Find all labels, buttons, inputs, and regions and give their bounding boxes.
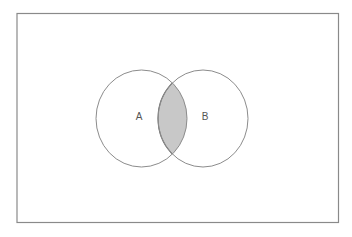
venn-diagram: A B xyxy=(0,0,352,237)
set-b-label: B xyxy=(202,111,209,122)
set-a-label: A xyxy=(136,111,143,122)
